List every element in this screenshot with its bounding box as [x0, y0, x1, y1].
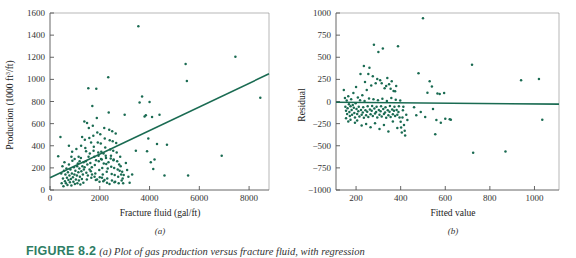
figure-caption-label: FIGURE 8.2: [26, 245, 96, 258]
tick-label: 800: [483, 193, 497, 203]
panel-a-data-points: [57, 25, 262, 187]
panel-b-zero-line: [336, 102, 559, 104]
panel-b-x-axis-title: Fitted value: [430, 208, 475, 218]
panel-b-x-tick-labels: 2004006008001000: [349, 193, 544, 203]
panel-b-data-points: [343, 17, 544, 154]
tick-label: 0: [48, 193, 53, 203]
panel-a-x-axis-title: Fracture fluid (gal/ft): [120, 208, 201, 219]
tick-label: −500: [312, 141, 331, 151]
tick-label: 200: [32, 163, 46, 173]
tick-label: 0: [327, 97, 332, 107]
panel-a-y-tick-labels: 02004006008001000120014001600: [27, 8, 46, 195]
tick-label: 1000: [27, 74, 46, 84]
tick-label: 200: [349, 193, 363, 203]
tick-label: 250: [318, 74, 332, 84]
tick-label: 0: [41, 185, 46, 195]
tick-label: 6000: [190, 193, 209, 203]
figure-caption: FIGURE 8.2 (a) Plot of gas production ve…: [26, 245, 566, 258]
tick-label: 1000: [313, 8, 332, 18]
tick-label: 400: [32, 141, 46, 151]
tick-label: 800: [32, 97, 46, 107]
panel-a-production-vs-fracture-fluid: 02004006008001000120014001600 0200040006…: [0, 0, 288, 257]
panel-b-residual-vs-fitted: −1000−750−500−25002505007501000 20040060…: [288, 0, 576, 257]
figure-caption-text: (a) Plot of gas production versus fractu…: [99, 246, 365, 257]
tick-label: 400: [394, 193, 408, 203]
tick-label: 750: [318, 30, 332, 40]
tick-label: 1200: [27, 52, 46, 62]
panel-a-letter: (a): [155, 226, 166, 236]
tick-label: 600: [439, 193, 453, 203]
panel-b-letter: (b): [448, 226, 459, 236]
tick-label: 1600: [27, 8, 46, 18]
tick-label: 600: [32, 119, 46, 129]
tick-label: 4000: [141, 193, 160, 203]
panel-b-y-tick-labels: −1000−750−500−25002505007501000: [308, 8, 332, 195]
tick-label: 2000: [91, 193, 110, 203]
tick-label: 1000: [525, 193, 544, 203]
tick-label: 1400: [27, 30, 46, 40]
panel-a-axes-frame: [50, 13, 269, 190]
tick-label: −750: [312, 163, 331, 173]
panel-a-plot: 02004006008001000120014001600 0200040006…: [0, 0, 288, 257]
panel-a-y-axis-title: Production (1000 ft3/ft): [4, 60, 16, 149]
tick-label: −1000: [308, 185, 332, 195]
tick-label: 500: [318, 52, 332, 62]
panel-b-plot: −1000−750−500−25002505007501000 20040060…: [288, 0, 576, 257]
panel-a-x-tick-labels: 02000400060008000: [48, 193, 259, 203]
panel-b-axes-frame: [336, 13, 559, 190]
panel-a-regression-line: [50, 74, 269, 178]
tick-label: 8000: [240, 193, 259, 203]
panel-b-y-axis-title: Residual: [297, 88, 307, 122]
tick-label: −250: [312, 119, 331, 129]
